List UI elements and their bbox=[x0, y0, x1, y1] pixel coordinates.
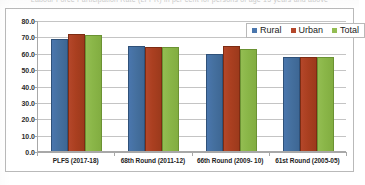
legend-swatch-rural bbox=[252, 28, 257, 33]
x-axis-labels: PLFS (2017-18)68th Round (2011-12)66th R… bbox=[37, 156, 346, 168]
bar-group bbox=[193, 21, 270, 151]
bar-total bbox=[317, 57, 334, 151]
bar-group bbox=[38, 21, 115, 151]
bar-group bbox=[270, 21, 347, 151]
x-tick-mark bbox=[192, 152, 193, 156]
bar-total bbox=[240, 49, 257, 151]
legend-item-urban: Urban bbox=[291, 26, 324, 35]
legend-item-rural: Rural bbox=[252, 26, 282, 35]
x-axis-category-label: 66th Round (2009- 10) bbox=[197, 156, 264, 165]
bar-rural bbox=[51, 39, 68, 151]
chart-legend: RuralUrbanTotal bbox=[246, 23, 365, 38]
x-tick-mark bbox=[269, 152, 270, 156]
bar-rural bbox=[206, 54, 223, 151]
plot-area: 80.070.060.050.040.030.020.010.00.0 bbox=[37, 21, 346, 152]
x-tick-mark bbox=[37, 152, 38, 156]
y-axis-tick-label: 10.0 bbox=[21, 132, 35, 139]
y-axis-tick-label: 50.0 bbox=[21, 67, 35, 74]
legend-label-rural: Rural bbox=[260, 26, 282, 35]
legend-label-urban: Urban bbox=[299, 26, 324, 35]
x-axis-category-label: 61st Round (2005-05) bbox=[275, 156, 339, 165]
bar-urban bbox=[300, 57, 317, 151]
clipped-page-title: Labour Force Participation Rate (LFPR) i… bbox=[0, 0, 359, 7]
bar-group bbox=[115, 21, 192, 151]
y-axis-tick-label: 20.0 bbox=[21, 116, 35, 123]
legend-swatch-total bbox=[332, 28, 337, 33]
bar-urban bbox=[145, 47, 162, 151]
x-axis-category-label: 68th Round (2011-12) bbox=[121, 156, 185, 165]
y-axis-tick-label: 0.0 bbox=[25, 149, 35, 156]
y-axis-tick-label: 80.0 bbox=[21, 18, 35, 25]
bar-total bbox=[85, 35, 102, 151]
bar-total bbox=[162, 47, 179, 151]
y-axis-tick-label: 70.0 bbox=[21, 34, 35, 41]
y-axis-tick-label: 40.0 bbox=[21, 83, 35, 90]
legend-swatch-urban bbox=[291, 28, 296, 33]
bar-rural bbox=[283, 57, 300, 151]
x-tick-mark bbox=[346, 152, 347, 156]
legend-label-total: Total bbox=[340, 26, 359, 35]
clipped-page-title-text: Labour Force Participation Rate (LFPR) i… bbox=[0, 0, 359, 3]
chart-frame: 80.070.060.050.040.030.020.010.00.0 PLFS… bbox=[5, 8, 354, 172]
legend-item-total: Total bbox=[332, 26, 359, 35]
bar-urban bbox=[223, 46, 240, 151]
bars-layer bbox=[38, 21, 346, 151]
x-tick-mark bbox=[114, 152, 115, 156]
bar-urban bbox=[68, 34, 85, 151]
bar-rural bbox=[128, 46, 145, 151]
x-axis-category-label: PLFS (2017-18) bbox=[53, 156, 99, 165]
y-axis-tick-label: 60.0 bbox=[21, 50, 35, 57]
y-axis-tick-label: 30.0 bbox=[21, 99, 35, 106]
